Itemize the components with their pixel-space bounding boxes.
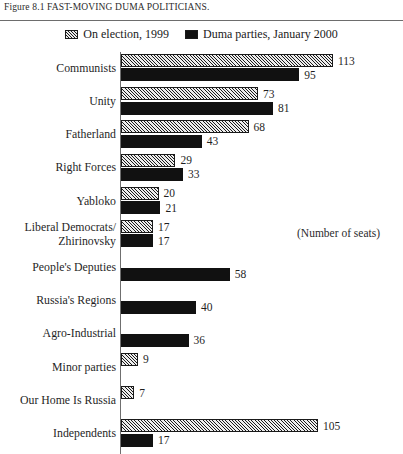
bar-row: People's Deputies58	[0, 251, 403, 284]
bar-duma-parties: 43	[121, 135, 218, 148]
category-label-line: Fatherland	[66, 128, 116, 142]
bar-value-label: 17	[158, 221, 170, 233]
bar-rect	[121, 154, 175, 167]
category-label: Our Home Is Russia	[0, 384, 116, 417]
bar-value-label: 7	[139, 387, 145, 399]
bar-row: Our Home Is Russia7	[0, 384, 403, 417]
bar-value-label: 81	[278, 102, 290, 114]
bar-group: 1717	[121, 218, 403, 251]
bar-row: Agro-Industrial36	[0, 318, 403, 351]
bar-on-election: 73	[121, 87, 274, 100]
figure-caption: Figure 8.1 FAST-MOVING DUMA POLITICIANS.	[4, 2, 210, 12]
category-label: Liberal Democrats/Zhirinovsky	[0, 218, 116, 251]
bar-rect	[121, 234, 153, 247]
bar-duma-parties: 36	[121, 334, 205, 347]
category-label-line: Yabloko	[77, 195, 116, 209]
bar-row: Right Forces2933	[0, 152, 403, 185]
category-label-line: Right Forces	[55, 161, 116, 175]
bar-duma-parties: 81	[121, 102, 289, 115]
category-label-line: Our Home Is Russia	[20, 394, 116, 408]
category-label-line: Independents	[53, 427, 116, 441]
bar-group: 36	[121, 318, 403, 351]
category-label: Russia's Regions	[0, 284, 116, 317]
bar-value-label: 105	[323, 420, 340, 432]
bar-row: Minor parties9	[0, 351, 403, 384]
bar-on-election: 29	[121, 154, 192, 167]
category-label-line: Russia's Regions	[36, 294, 116, 308]
bar-rect	[121, 268, 230, 281]
legend-label-duma-parties: Duma parties, January 2000	[203, 27, 338, 42]
bar-value-label: 33	[188, 168, 200, 180]
bar-value-label: 68	[254, 121, 266, 133]
bar-duma-parties: 21	[121, 201, 177, 214]
bar-row: Communists11395	[0, 52, 403, 85]
bar-rect	[121, 419, 318, 432]
bar-value-label: 20	[164, 187, 176, 199]
bar-duma-parties: 17	[121, 434, 169, 447]
category-label-line: Minor parties	[52, 361, 116, 375]
legend-label-on-election: On election, 1999	[83, 27, 169, 42]
bar-group: 40	[121, 284, 403, 317]
solid-swatch-icon	[185, 30, 198, 39]
bar-duma-parties: 17	[121, 234, 169, 247]
category-label-line: Communists	[56, 62, 116, 76]
category-label: Unity	[0, 85, 116, 118]
legend-item-duma-parties: Duma parties, January 2000	[185, 27, 338, 42]
bar-value-label: 17	[158, 434, 170, 446]
bar-rect	[121, 353, 138, 366]
bar-duma-parties: 95	[121, 68, 316, 81]
bar-rect	[121, 87, 258, 100]
bar-duma-parties: 58	[121, 268, 246, 281]
bar-row: Russia's Regions40	[0, 284, 403, 317]
bar-group: 9	[121, 351, 403, 384]
bar-duma-parties: 33	[121, 168, 199, 181]
bar-row: Yabloko2021	[0, 185, 403, 218]
bar-value-label: 73	[263, 88, 275, 100]
bar-on-election: 113	[121, 54, 355, 67]
bar-group: 6843	[121, 118, 403, 151]
bar-group: 11395	[121, 52, 403, 85]
bar-rect	[121, 68, 299, 81]
bar-group: 10517	[121, 417, 403, 450]
bar-value-label: 113	[338, 55, 355, 67]
bar-value-label: 36	[194, 334, 206, 346]
bar-value-label: 43	[207, 135, 219, 147]
bar-group: 7381	[121, 85, 403, 118]
bar-value-label: 17	[158, 235, 170, 247]
bar-rect	[121, 220, 153, 233]
category-label: Yabloko	[0, 185, 116, 218]
category-label: Right Forces	[0, 152, 116, 185]
category-label-line: People's Deputies	[32, 261, 116, 275]
chart-legend: On election, 1999 Duma parties, January …	[0, 27, 403, 42]
bar-value-label: 95	[304, 69, 316, 81]
legend-item-on-election: On election, 1999	[65, 27, 169, 42]
bar-rect	[121, 434, 153, 447]
bar-value-label: 40	[201, 301, 213, 313]
bar-on-election: 105	[121, 419, 340, 432]
bar-value-label: 29	[180, 154, 192, 166]
bar-on-election: 20	[121, 187, 175, 200]
bar-row: Independents10517	[0, 417, 403, 450]
hatched-swatch-icon	[65, 30, 78, 39]
bar-row: Fatherland6843	[0, 118, 403, 151]
category-label-line: Liberal Democrats/	[25, 221, 116, 235]
bar-on-election: 9	[121, 353, 149, 366]
category-label: Independents	[0, 417, 116, 450]
bar-rect	[121, 168, 183, 181]
bar-group: 2021	[121, 185, 403, 218]
bar-on-election: 7	[121, 386, 145, 399]
category-label: Agro-Industrial	[0, 318, 116, 351]
bar-rect	[121, 187, 159, 200]
bar-row: Liberal Democrats/Zhirinovsky1717	[0, 218, 403, 251]
category-label: People's Deputies	[0, 251, 116, 284]
bar-row: Unity7381	[0, 85, 403, 118]
bar-duma-parties: 40	[121, 301, 213, 314]
chart-plot-area: (Number of seats) Communists11395Unity73…	[0, 52, 403, 454]
bar-value-label: 21	[165, 202, 177, 214]
category-label-line: Unity	[89, 95, 116, 109]
bar-rect	[121, 120, 249, 133]
category-label-line: Agro-Industrial	[43, 327, 116, 341]
bar-on-election: 17	[121, 220, 169, 233]
bar-value-label: 58	[235, 268, 247, 280]
bar-rect	[121, 334, 189, 347]
